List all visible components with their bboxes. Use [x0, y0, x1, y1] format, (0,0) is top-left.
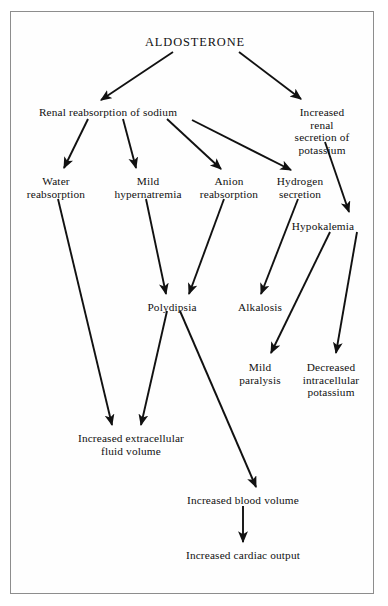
arrow-renal_na-to-anion: [167, 119, 221, 169]
node-water: Water reabsorption: [27, 175, 85, 200]
arrow-renal_na-to-water: [64, 119, 88, 168]
node-aldosterone: ALDOSTERONE: [145, 36, 245, 50]
arrow-polydipsia-to-blood_volume: [180, 311, 256, 487]
node-renal_k: Increased renal secretion of potassium: [289, 106, 355, 157]
node-paralysis: Mild paralysis: [239, 361, 281, 386]
node-decreased_k: Decreased intracellular potassium: [303, 361, 360, 399]
arrow-hypokalemia-to-paralysis: [271, 232, 330, 353]
arrow-renal_na-to-hydrogen: [192, 120, 291, 170]
node-hypernatremia: Mild hypernatremia: [114, 175, 181, 200]
node-hypokalemia: Hypokalemia: [292, 220, 355, 233]
node-ecf: Increased extracellular fluid volume: [78, 432, 184, 457]
node-blood_volume: Increased blood volume: [187, 494, 299, 507]
arrow-hypokalemia-to-decreased_k: [336, 232, 357, 353]
node-anion: Anion reabsorption: [200, 175, 258, 200]
node-polydipsia: Polydipsia: [147, 301, 196, 314]
arrow-hydrogen-to-alkalosis: [261, 199, 298, 294]
arrow-renal_na-to-hypernatremia: [123, 119, 136, 168]
arrow-anion-to-polydipsia: [189, 199, 224, 294]
arrow-hypernatremia-to-polydipsia: [146, 199, 166, 294]
arrow-aldosterone-to-renal_k: [239, 52, 301, 99]
arrow-aldosterone-to-renal_na: [101, 52, 173, 100]
node-hydrogen: Hydrogen secretion: [277, 175, 323, 200]
diagram-page: ALDOSTERONERenal reabsorption of sodiumI…: [0, 0, 388, 606]
node-alkalosis: Alkalosis: [238, 301, 282, 314]
node-cardiac: Increased cardiac output: [186, 549, 300, 562]
arrow-polydipsia-to-ecf: [141, 311, 167, 425]
arrow-water-to-ecf: [58, 199, 112, 425]
node-renal_na: Renal reabsorption of sodium: [39, 106, 177, 119]
